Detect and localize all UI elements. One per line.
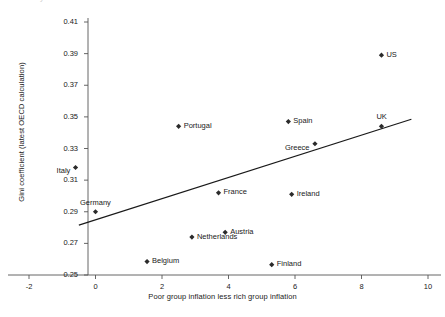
y-tick-label: 0.37 (50, 80, 78, 89)
x-axis-title: Poor group inflation less rich group inf… (0, 292, 445, 301)
data-point-label: Netherlands (197, 232, 237, 241)
x-tick-label: 6 (282, 282, 308, 291)
data-point-label: France (224, 187, 247, 196)
data-point-marker (176, 124, 181, 129)
data-point-label: UK (376, 112, 386, 121)
data-point-label: Greece (285, 143, 310, 152)
x-tick-label: -2 (16, 282, 42, 291)
data-point-marker (286, 119, 291, 124)
data-point-marker (216, 190, 221, 195)
y-axis-title-container: Gini coefficient (latest OECD calculatio… (17, 12, 31, 252)
data-point-marker (289, 192, 294, 197)
data-point-label: Spain (293, 116, 312, 125)
y-tick-label: 0.29 (50, 207, 78, 216)
x-tick-label: 2 (149, 282, 175, 291)
data-point-label: Ireland (297, 189, 320, 198)
y-tick-label: 0.27 (50, 238, 78, 247)
y-tick-label: 0.33 (50, 144, 78, 153)
data-point-marker (144, 259, 149, 264)
y-tick-label: 0.39 (50, 49, 78, 58)
y-axis-title: Gini coefficient (latest OECD calculatio… (17, 12, 26, 252)
y-tick-label: 0.41 (50, 17, 78, 26)
data-point-label: Belgium (152, 256, 179, 265)
data-point-label: Germany (80, 198, 111, 207)
data-point-label: US (386, 50, 396, 59)
data-point-marker (93, 209, 98, 214)
scatter-chart: y Gini coefficient (latest OECD calculat… (0, 0, 445, 317)
data-point-label: Portugal (184, 121, 212, 130)
x-tick-label: 8 (349, 282, 375, 291)
trend-line (79, 119, 412, 225)
y-tick-label: 0.31 (50, 175, 78, 184)
data-point-label: Finland (277, 259, 302, 268)
data-point-marker (312, 141, 317, 146)
data-point-label: Italy (57, 166, 71, 175)
data-point-marker (269, 262, 274, 267)
x-tick-label: 10 (415, 282, 441, 291)
y-tick-label: 0.25 (50, 270, 78, 279)
y-tick-label: 0.35 (50, 112, 78, 121)
data-point-marker (73, 165, 78, 170)
x-tick-label: 4 (216, 282, 242, 291)
data-point-marker (189, 234, 194, 239)
x-tick-label: 0 (83, 282, 109, 291)
data-point-marker (379, 53, 384, 58)
